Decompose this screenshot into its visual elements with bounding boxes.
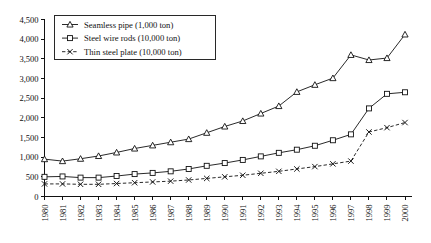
data-point-marker-square [240,157,245,162]
data-point-marker-triangle [186,136,192,142]
data-point-marker-triangle [258,110,264,116]
y-tick-label: 500 [26,172,39,182]
data-point-marker-triangle [294,89,300,95]
x-tick-label: 1990 [220,205,230,222]
x-tick-label: 1992 [256,205,266,222]
data-point-marker-square [312,143,317,148]
chart-container: 05001,0001,5002,0002,5003,0003,5004,0004… [0,0,431,243]
x-axis-group: 1980198119821983198419851986198719881989… [40,197,412,222]
x-tick-label: 1996 [328,205,338,222]
x-tick-labels: 1980198119821983198419851986198719881989… [40,204,411,222]
data-point-marker-triangle [240,118,246,124]
y-axis-group: 05001,0001,5002,0002,5003,0003,5004,0004… [19,15,44,202]
y-tick-label: 4,500 [19,15,38,25]
y-tick-label: 4,000 [19,34,38,44]
x-tick-label: 1995 [310,205,320,222]
x-tick-label: 1982 [76,205,86,222]
y-tick-labels: 05001,0001,5002,0002,5003,0003,5004,0004… [19,15,38,202]
x-tick-label: 1980 [40,205,50,222]
data-point-marker-square [204,163,209,168]
data-point-marker-square [403,90,408,95]
data-point-marker-square [168,169,173,174]
x-tick-label: 1988 [184,205,194,222]
data-point-marker-triangle [204,130,210,136]
y-tick-label: 2,000 [19,113,38,123]
y-tick-label: 2,500 [19,93,38,103]
x-tick-label: 2000 [400,205,410,222]
data-point-marker-square [114,174,119,179]
x-tick-label: 1983 [94,205,104,222]
data-point-marker-square [222,161,227,166]
x-tick-label: 1984 [112,204,122,222]
data-point-marker-square [68,36,73,41]
chart-legend: Seamless pipe (1,000 ton)Steel wire rods… [55,16,216,60]
legend-label: Steel wire rods (10,000 ton) [84,33,180,43]
data-point-marker-square [348,132,353,137]
data-point-marker-triangle [402,31,408,37]
data-point-marker-square [384,91,389,96]
y-tick-label: 3,000 [19,74,38,84]
data-point-marker-square [186,166,191,171]
y-tick-label: 1,000 [19,152,38,162]
x-tick-label: 1998 [364,205,374,222]
x-tick-label: 1981 [58,205,68,222]
x-tick-label: 1986 [148,205,158,222]
data-point-marker-square [132,172,137,177]
x-tick-label: 1994 [292,204,302,222]
data-point-marker-triangle [348,52,354,58]
y-tick-label: 0 [34,192,38,202]
x-tick-label: 1989 [202,205,212,222]
x-tick-label: 1999 [382,205,392,222]
data-point-marker-square [276,150,281,155]
data-point-marker-square [150,170,155,175]
data-point-marker-square [96,175,101,180]
x-tick-label: 1997 [346,205,356,222]
x-tick-label: 1987 [166,205,176,222]
data-point-marker-triangle [312,82,318,88]
series-2 [42,90,408,180]
data-point-marker-square [258,154,263,159]
legend-label: Thin steel plate (10,000 ton) [84,47,182,57]
x-tick-label: 1985 [130,205,140,222]
x-tick-label: 1991 [238,205,248,222]
data-point-marker-square [78,175,83,180]
y-tick-label: 1,500 [19,133,38,143]
legend-label: Seamless pipe (1,000 ton) [84,20,173,30]
x-tick-label: 1993 [274,205,284,222]
data-point-marker-square [330,138,335,143]
data-point-marker-square [294,147,299,152]
x-tick-marks [45,197,406,201]
y-tick-marks [41,20,45,197]
line-chart: 05001,0001,5002,0002,5003,0003,5004,0004… [0,0,431,243]
data-point-marker-square [60,174,65,179]
data-point-marker-square [42,174,47,179]
y-tick-label: 3,500 [19,54,38,64]
data-point-marker-square [366,106,371,111]
